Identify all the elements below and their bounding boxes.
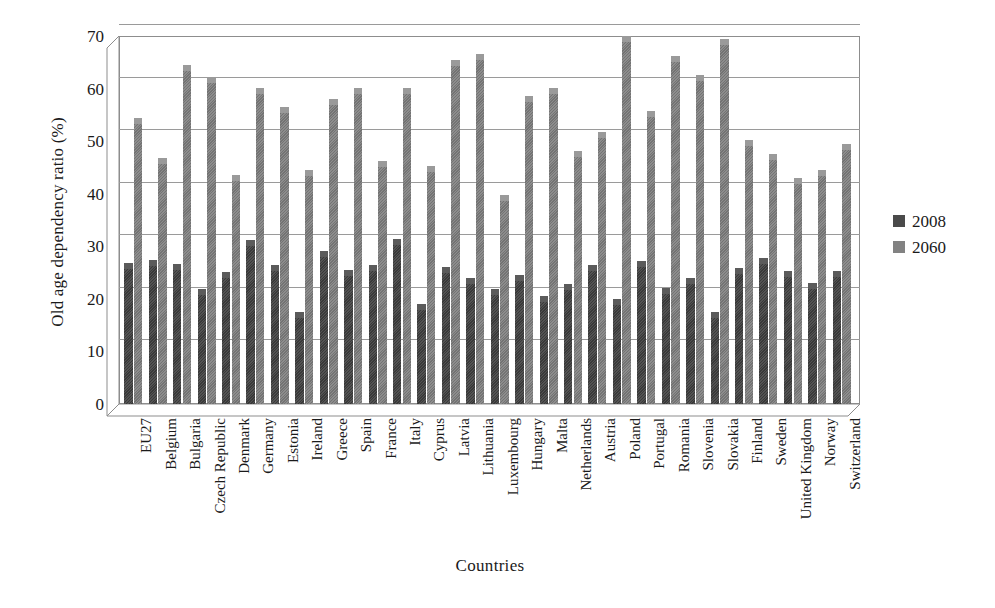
x-axis-label-czech-republic: Czech Republic	[213, 418, 228, 513]
bar-top-cap	[735, 268, 743, 274]
x-axis-label-poland: Poland	[628, 418, 643, 460]
bar-top-cap	[500, 195, 508, 201]
bar-top-cap	[491, 289, 499, 295]
bar-2060-greece	[329, 104, 337, 404]
bar-top-cap	[696, 75, 704, 81]
bar-top-cap	[833, 271, 841, 277]
bar-top-cap	[134, 118, 142, 124]
bar-top-cap	[256, 88, 264, 94]
bar-face	[173, 269, 181, 404]
bar-top-cap	[149, 260, 157, 266]
bar-top-cap	[842, 144, 850, 150]
y-axis-tick-30: 30	[60, 238, 104, 255]
x-axis-label-switzerland: Switzerland	[848, 418, 863, 490]
bar-2008-united-kingdom	[784, 276, 792, 404]
bar-2060-luxembourg	[500, 200, 508, 405]
bar-2008-switzerland	[833, 276, 841, 404]
bar-2060-belgium	[158, 163, 166, 404]
y-axis-tick-10: 10	[60, 343, 104, 360]
x-axis-label-germany: Germany	[261, 418, 276, 474]
bar-top-cap	[198, 289, 206, 295]
bar-face	[598, 137, 606, 404]
bar-top-cap	[305, 170, 313, 176]
bar-face	[549, 93, 557, 404]
bar-face	[525, 101, 533, 404]
bar-2060-lithuania	[476, 59, 484, 404]
bar-top-cap	[427, 166, 435, 172]
bar-2060-united-kingdom	[794, 183, 802, 404]
bar-top-cap	[598, 132, 606, 138]
bar-2008-greece	[320, 256, 328, 404]
bar-face	[354, 93, 362, 404]
bar-2060-finland	[745, 145, 753, 404]
bar-face	[403, 93, 411, 404]
bar-face	[662, 293, 670, 404]
legend-swatch-icon	[893, 215, 905, 227]
bar-2060-slovakia	[720, 44, 728, 404]
x-axis-label-finland: Finland	[750, 418, 765, 464]
bar-face	[124, 268, 132, 404]
x-axis-label-estonia: Estonia	[286, 418, 301, 463]
bar-2008-denmark	[222, 277, 230, 404]
bar-2008-hungary	[515, 280, 523, 404]
bar-face	[622, 41, 630, 404]
bar-2060-ireland	[305, 175, 313, 404]
chart-legend: 20082060	[893, 208, 988, 260]
bar-top-cap	[329, 99, 337, 105]
bar-face	[794, 183, 802, 404]
bar-2008-finland	[735, 273, 743, 404]
bar-face	[564, 289, 572, 404]
x-axis-label-ireland: Ireland	[310, 418, 325, 460]
bar-top-cap	[671, 56, 679, 62]
bar-2060-austria	[598, 137, 606, 404]
bar-2008-lithuania	[466, 283, 474, 404]
bar-face	[320, 256, 328, 404]
bar-top-cap	[808, 283, 816, 289]
bar-2060-switzerland	[842, 149, 850, 404]
bar-top-cap	[393, 239, 401, 245]
bar-2008-latvia	[442, 272, 450, 404]
legend-item-2008: 2008	[893, 208, 988, 234]
bar-top-cap	[354, 88, 362, 94]
bar-top-cap	[637, 261, 645, 267]
bar-top-cap	[784, 271, 792, 277]
bar-2008-malta	[540, 301, 548, 404]
bar-top-cap	[540, 296, 548, 302]
bar-face	[329, 104, 337, 404]
bar-top-cap	[403, 88, 411, 94]
bar-face	[647, 116, 655, 404]
x-axis-label-slovakia: Slovakia	[726, 418, 741, 471]
bar-2060-sweden	[769, 159, 777, 405]
bar-face	[842, 149, 850, 404]
bar-top-cap	[295, 312, 303, 318]
bar-face	[305, 175, 313, 404]
x-axis-label-netherlands: Netherlands	[579, 418, 594, 490]
x-axis-label-italy: Italy	[408, 418, 423, 446]
x-axis-label-united-kingdom: United Kingdom	[799, 418, 814, 519]
x-axis-label-cyprus: Cyprus	[432, 418, 447, 461]
bar-top-cap	[613, 299, 621, 305]
bar-top-cap	[320, 251, 328, 257]
x-axis-title: Countries	[110, 556, 870, 576]
bar-2060-cyprus	[427, 171, 435, 404]
bar-top-cap	[769, 154, 777, 160]
bar-2060-netherlands	[574, 156, 582, 404]
bar-2008-ireland	[295, 317, 303, 404]
bar-face	[735, 273, 743, 404]
bar-top-cap	[818, 170, 826, 176]
bar-face	[271, 270, 279, 404]
bar-2008-sweden	[759, 263, 767, 404]
bar-top-cap	[183, 65, 191, 71]
bar-2060-czech-republic	[207, 82, 215, 404]
bar-top-cap	[232, 175, 240, 181]
bar-2008-portugal	[637, 266, 645, 404]
x-axis-label-latvia: Latvia	[457, 418, 472, 456]
bar-2060-bulgaria	[183, 70, 191, 404]
y-axis-tick-50: 50	[60, 133, 104, 150]
bar-2060-portugal	[647, 116, 655, 404]
bar-top-cap	[271, 265, 279, 271]
bar-top-cap	[344, 270, 352, 276]
bar-face	[720, 44, 728, 404]
bar-top-cap	[466, 278, 474, 284]
bar-2008-bulgaria	[173, 269, 181, 404]
